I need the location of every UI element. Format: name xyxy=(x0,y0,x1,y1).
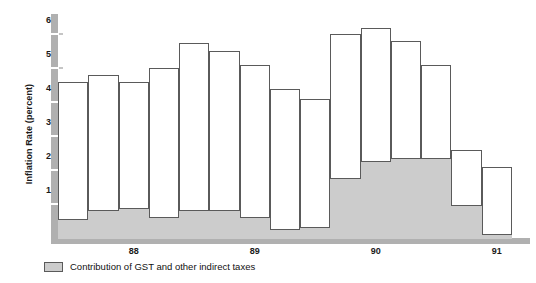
bar-gst-segment xyxy=(88,210,118,239)
chart-legend: Contribution of GST and other indirect t… xyxy=(44,261,255,272)
plot-area xyxy=(58,14,530,238)
bar-gst-segment xyxy=(330,178,360,239)
x-tick-label-91: 91 xyxy=(492,246,502,256)
bar-91q1 xyxy=(451,150,481,238)
bar-88q4 xyxy=(179,43,209,238)
bar-88q1 xyxy=(88,75,118,238)
bar-gst-segment xyxy=(391,158,421,239)
bar-gst-segment xyxy=(300,227,330,239)
bar-90q2 xyxy=(361,28,391,238)
bar-90q4 xyxy=(421,65,451,238)
y-tick-label-4: 4 xyxy=(37,83,51,93)
bar-87q4 xyxy=(58,82,88,238)
y-tick-mark-3 xyxy=(51,135,58,137)
bar-gst-segment xyxy=(421,158,451,239)
y-tick-label-5: 5 xyxy=(37,49,51,59)
bar-91q2 xyxy=(482,167,512,238)
y-tick-label-3: 3 xyxy=(37,117,51,127)
bar-89q4 xyxy=(300,99,330,238)
legend-label-gst: Contribution of GST and other indirect t… xyxy=(70,261,255,272)
x-tick-label-89: 89 xyxy=(250,246,260,256)
y-tick-mark-6 xyxy=(51,33,58,35)
legend-swatch-gst xyxy=(44,262,63,272)
bar-89q3 xyxy=(270,89,300,238)
bar-88q2 xyxy=(119,82,149,238)
bar-gst-segment xyxy=(482,234,512,239)
y-tick-label-1: 1 xyxy=(37,185,51,195)
bar-gst-segment xyxy=(149,217,179,239)
y-axis-ticks: 123456 xyxy=(0,0,51,224)
bar-gst-segment xyxy=(240,217,270,239)
bar-gst-segment xyxy=(179,210,209,239)
bar-90q1 xyxy=(330,34,360,238)
y-tick-mark-5 xyxy=(51,67,58,69)
bar-gst-segment xyxy=(270,229,300,239)
bar-gst-segment xyxy=(451,205,481,239)
x-tick-label-88: 88 xyxy=(129,246,139,256)
bar-89q2 xyxy=(240,65,270,238)
bar-gst-segment xyxy=(209,210,239,239)
y-tick-mark-4 xyxy=(51,101,58,103)
bar-gst-segment xyxy=(361,161,391,239)
y-tick-label-6: 6 xyxy=(37,15,51,25)
bar-90q3 xyxy=(391,41,421,238)
bar-gst-segment xyxy=(58,219,88,239)
bar-88q3 xyxy=(149,68,179,238)
y-tick-mark-2 xyxy=(51,169,58,171)
inflation-rate-chart: Inflation Rate (percent) 123456 88899091… xyxy=(0,0,536,283)
x-tick-label-90: 90 xyxy=(371,246,381,256)
bar-gst-segment xyxy=(119,208,149,239)
bar-89q1 xyxy=(209,51,239,238)
y-tick-mark-1 xyxy=(51,203,58,205)
y-tick-label-2: 2 xyxy=(37,151,51,161)
